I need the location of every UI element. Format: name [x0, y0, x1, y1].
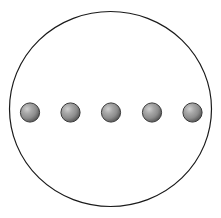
- sphere-2: [61, 103, 80, 122]
- sphere-1: [20, 103, 39, 122]
- diagram-svg: [0, 0, 221, 218]
- sphere-5: [183, 103, 202, 122]
- sphere-row: [20, 103, 202, 122]
- sphere-3: [101, 103, 120, 122]
- sphere-4: [142, 103, 161, 122]
- figure-canvas: Five shaded gray spheres arranged in a h…: [0, 0, 221, 218]
